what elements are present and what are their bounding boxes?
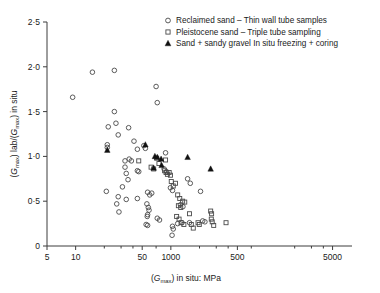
data-point [154,84,159,89]
legend-label: Reclaimed sand – Thin wall tube samples [176,16,327,25]
data-point [126,177,131,182]
data-point [208,166,214,171]
data-point [114,121,119,126]
data-point [163,151,168,156]
x-tick-label: 500 [230,252,244,262]
data-point [185,154,191,159]
data-point [155,100,160,105]
data-points-layer [70,68,228,237]
series-1 [70,68,207,237]
y-title-subscript-1: max [14,157,20,168]
y-title-subscript-2: max [14,118,20,129]
x-tick-label: 1000 [161,252,180,262]
scatter-chart-figure: 5105010005005000 00·51·01·52·02·5 (Gmax)… [0,0,380,293]
x-title-subscript: max [160,278,171,284]
x-tick-label: 50 [137,252,147,262]
data-point [116,133,121,138]
data-point [112,68,117,73]
legend-marker [165,40,171,46]
data-point [143,142,149,147]
data-point [135,147,140,152]
chart-canvas: 5105010005005000 00·51·01·52·02·5 (Gmax)… [0,0,380,293]
legend-marker [166,18,171,23]
legend-marker [166,30,170,34]
data-point [145,223,150,228]
y-title-post: ) in situ [9,90,19,118]
data-point [124,171,129,176]
data-point [185,177,190,182]
x-tick-label: 5000 [323,252,342,262]
data-point [123,165,128,170]
x-axis-title: (Gmax) in situ: MPa [151,273,221,284]
data-point [187,212,191,216]
chart-legend: Reclaimed sand – Thin wall tube samplesP… [165,16,338,48]
x-tick-label: 10 [71,252,81,262]
data-point [106,125,111,130]
data-point [112,109,117,114]
data-point [159,162,165,167]
data-point [116,194,121,199]
legend-label: Sand + sandy gravel In situ freezing + c… [176,39,338,48]
data-point [132,139,137,144]
data-point [171,227,176,232]
data-point [70,95,75,100]
x-axis-tick-labels: 5105010005005000 [45,252,343,262]
y-tick-label: 1·5 [28,107,41,117]
data-point [104,189,109,194]
data-point [198,189,203,194]
y-title-mid: ) lab/( [9,135,19,157]
y-axis-tick-labels: 00·51·01·52·02·5 [28,17,41,251]
data-point [120,185,125,190]
data-point [136,169,141,174]
y-axis-ticks [43,22,47,246]
y-tick-label: 0 [35,241,40,251]
data-point [188,181,193,186]
y-axis-title: (Gmax) lab/(Gmax) in situ [9,90,20,177]
legend-label: Pleistocene sand – Triple tube sampling [176,28,321,37]
data-point [126,125,131,130]
x-tick-label: 5 [45,252,50,262]
data-point [117,210,122,215]
data-point [90,70,95,75]
x-axis-major-ticks [47,246,333,250]
y-tick-label: 0·5 [28,196,41,206]
data-point [114,202,119,207]
data-point [124,197,129,202]
y-tick-label: 2·5 [28,17,41,27]
data-point [169,179,173,183]
x-title-rest: ) in situ: MPa [171,273,221,283]
data-point [224,221,228,225]
y-tick-label: 1·0 [28,151,41,161]
data-point [137,159,141,163]
data-point [147,208,152,213]
data-point [135,196,140,201]
y-tick-label: 2·0 [28,62,41,72]
data-point [170,233,175,238]
